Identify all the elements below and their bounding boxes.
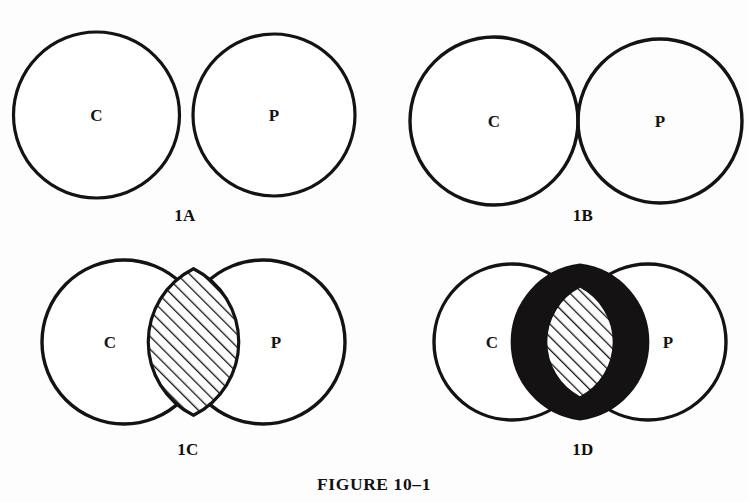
- panel-label-1c: 1C: [177, 440, 198, 460]
- circle-p-label-1d: P: [663, 333, 673, 352]
- circle-c-label-1b: C: [488, 112, 500, 131]
- figure-container: C P 1A C P 1B: [0, 0, 748, 502]
- panel-label-1a: 1A: [174, 206, 195, 226]
- panel-1d: C P: [374, 251, 748, 451]
- panel-label-1b: 1B: [573, 206, 593, 226]
- circle-p-label-1a: P: [269, 106, 279, 125]
- panel-1a-diagram: C P: [0, 0, 374, 230]
- panel-1a: C P: [0, 0, 374, 230]
- panel-1c-diagram: C P: [0, 251, 374, 451]
- panel-1d-diagram: C P: [374, 251, 748, 451]
- panel-1b-diagram: C P: [374, 0, 748, 230]
- circle-p-label-1b: P: [655, 112, 665, 131]
- panel-1b: C P: [374, 0, 748, 230]
- figure-caption: FIGURE 10–1: [317, 474, 431, 495]
- circle-c-label-1a: C: [90, 106, 102, 125]
- circle-c-label-1d: C: [486, 333, 498, 352]
- circle-p-label-1c: P: [271, 333, 281, 352]
- panel-1c: C P: [0, 251, 374, 451]
- circle-c-label-1c: C: [104, 333, 116, 352]
- panel-label-1d: 1D: [572, 440, 593, 460]
